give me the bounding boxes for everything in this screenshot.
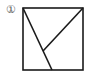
diagonal-right-line <box>43 8 83 51</box>
square-diagram <box>0 0 90 78</box>
diagonal-left-line <box>23 8 52 70</box>
